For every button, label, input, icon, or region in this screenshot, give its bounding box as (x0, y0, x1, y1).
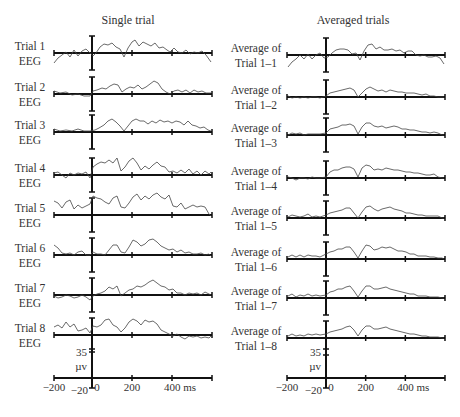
row-label: Trial 5 (15, 202, 46, 214)
row-label: Average of (231, 205, 282, 218)
row-label: Average of (231, 246, 282, 259)
scale-bottom-label: −20 (305, 384, 323, 396)
row-label: Average of (231, 165, 282, 178)
row-label: EEG (19, 217, 41, 229)
row-label: Trial 3 (15, 119, 46, 131)
eeg-row: Trial 7EEG (15, 278, 212, 312)
row-label: EEG (19, 177, 41, 189)
row-label: Trial 2 (15, 81, 46, 93)
eeg-row: Average ofTrial 1–4 (231, 161, 445, 195)
row-label: Average of (231, 84, 282, 97)
row-label: Average of (231, 42, 282, 55)
eeg-row: Average ofTrial 1–3 (231, 118, 445, 152)
single-trial-panel: Single trialTrial 1EEGTrial 2EEGTrial 3E… (15, 13, 212, 396)
eeg-row: Trial 1EEG (15, 36, 212, 70)
row-label: Trial 7 (15, 282, 46, 294)
row-label: Trial 1–2 (235, 99, 277, 111)
row-label: Trial 1 (15, 40, 46, 52)
eeg-row: Average ofTrial 1–6 (231, 242, 445, 276)
scale-bottom-label: −20 (71, 384, 89, 396)
scale-top-label: 35 (310, 346, 322, 358)
row-label: EEG (19, 134, 41, 146)
eeg-row: Average ofTrial 1–8 (231, 321, 445, 355)
x-tick-label: 400 ms (397, 381, 429, 393)
x-tick-label: 0 (328, 381, 334, 393)
row-label: EEG (19, 297, 41, 309)
row-label: EEG (19, 55, 41, 67)
eeg-row: Trial 4EEG (15, 158, 212, 192)
scale-unit: µv (75, 360, 87, 372)
eeg-row: Trial 6EEG (15, 238, 212, 272)
row-label: EEG (19, 337, 41, 349)
panel-title: Averaged trials (317, 13, 390, 27)
eeg-row: Trial 3EEG (15, 115, 212, 149)
scale-top-label: 35 (76, 346, 88, 358)
eeg-row: Trial 8EEG (15, 318, 212, 352)
row-label: Trial 1–7 (235, 300, 277, 312)
scale-unit: µv (309, 360, 321, 372)
row-label: Trial 1–3 (235, 137, 277, 149)
row-label: Trial 1–1 (235, 57, 277, 69)
scale-axis: 35µv−20−2000200400 ms (276, 346, 445, 396)
eeg-row: Trial 2EEG (15, 77, 212, 111)
row-label: Trial 8 (15, 322, 46, 334)
averaged-trials-panel: Averaged trialsAverage ofTrial 1–1Averag… (231, 13, 445, 396)
x-tick-label: −200 (43, 381, 66, 393)
x-tick-label: 0 (94, 381, 100, 393)
eeg-row: Average ofTrial 1–7 (231, 281, 445, 315)
panel-title: Single trial (102, 13, 156, 27)
x-tick-label: 200 (357, 381, 374, 393)
row-label: Average of (231, 325, 282, 338)
row-label: Average of (231, 122, 282, 135)
eeg-figure: Single trialTrial 1EEGTrial 2EEGTrial 3E… (0, 0, 460, 417)
x-tick-label: 400 ms (164, 381, 196, 393)
row-label: Trial 1–8 (235, 340, 277, 352)
scale-axis: 35µv−20−2000200400 ms (43, 346, 212, 396)
eeg-row: Average ofTrial 1–5 (231, 201, 445, 235)
x-tick-label: 200 (124, 381, 141, 393)
row-label: EEG (19, 257, 41, 269)
eeg-row: Average ofTrial 1–1 (231, 38, 445, 72)
eeg-row: Average ofTrial 1–2 (231, 80, 445, 114)
row-label: EEG (19, 96, 41, 108)
x-tick-label: −200 (276, 381, 299, 393)
row-label: Trial 1–6 (235, 261, 277, 273)
row-label: Trial 6 (15, 242, 46, 254)
row-label: Trial 1–4 (235, 180, 277, 192)
row-label: Trial 4 (15, 162, 46, 174)
row-label: Average of (231, 285, 282, 298)
row-label: Trial 1–5 (235, 220, 277, 232)
eeg-row: Trial 5EEG (15, 193, 212, 232)
